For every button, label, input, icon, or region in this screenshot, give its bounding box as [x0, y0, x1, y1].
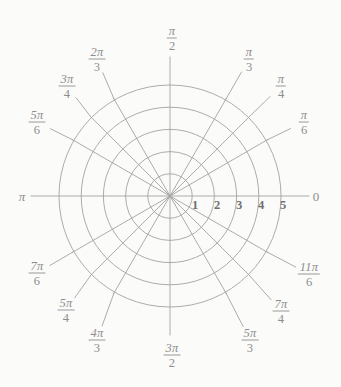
label-leader-line: [267, 252, 296, 267]
fraction-denominator: 3: [244, 59, 254, 73]
grid-spoke: [72, 140, 170, 197]
label-leader-line: [267, 129, 291, 140]
radial-tick-label-r3: 3: [236, 199, 242, 212]
fraction-numerator: 7π: [273, 298, 290, 312]
fraction-numerator: 3π: [59, 73, 76, 87]
label-leader-line: [75, 275, 91, 298]
angle-tick-label-pi-over-4: π4: [276, 73, 286, 100]
fraction-numerator: π: [167, 25, 177, 39]
fraction-numerator: 3π: [164, 342, 181, 356]
label-leader-line: [76, 98, 91, 117]
fraction-denominator: 3: [242, 340, 259, 354]
fraction-denominator: 3: [89, 340, 106, 354]
radial-tick-label-r2: 2: [214, 199, 220, 212]
fraction: 3π4: [59, 73, 76, 100]
fraction-denominator: 4: [273, 311, 290, 325]
fraction-denominator: 3: [89, 59, 106, 73]
fraction-denominator: 6: [29, 122, 46, 136]
angle-tick-label-pi-over-3: π3: [244, 46, 254, 73]
fraction-numerator: 11π: [298, 261, 320, 275]
fraction-denominator: 4: [58, 310, 75, 324]
label-leader-line: [102, 293, 114, 326]
angle-tick-label-eleven-pi-over-6: 11π6: [298, 261, 320, 288]
angle-tick-label-five-pi-over-4: 5π4: [58, 297, 75, 324]
angle-label-text: 0: [313, 189, 320, 204]
fraction-numerator: π: [276, 73, 286, 87]
angle-label-text: π: [19, 189, 26, 204]
label-leader-line: [226, 72, 242, 99]
fraction-numerator: 7π: [29, 260, 46, 274]
fraction: π4: [276, 73, 286, 100]
polar-grid-canvas: [0, 0, 341, 387]
grid-spoke: [114, 196, 171, 294]
grid-spoke: [90, 196, 170, 276]
grid-spoke: [170, 140, 268, 197]
label-leader-line: [103, 73, 114, 99]
fraction: 11π6: [298, 261, 320, 288]
fraction-numerator: 2π: [89, 46, 106, 60]
fraction: 4π3: [89, 327, 106, 354]
grid-spoke: [170, 98, 227, 196]
label-leader-line: [50, 252, 73, 265]
fraction: 7π6: [29, 260, 46, 287]
angle-tick-label-pi: π: [19, 190, 26, 203]
fraction-denominator: 2: [164, 355, 181, 369]
fraction-numerator: 5π: [58, 297, 75, 311]
fraction: π2: [167, 25, 177, 52]
angle-tick-label-seven-pi-over-4: 7π4: [273, 298, 290, 325]
radial-tick-label-r5: 5: [280, 199, 286, 212]
radial-tick-label-r4: 4: [258, 199, 264, 212]
fraction: 3π2: [164, 342, 181, 369]
label-leader-line: [249, 275, 271, 300]
fraction-denominator: 4: [276, 86, 286, 100]
fraction: 7π4: [273, 298, 290, 325]
radial-tick-label-r1: 1: [192, 199, 198, 212]
label-leader-line: [226, 293, 243, 327]
fraction-numerator: π: [299, 109, 309, 123]
fraction: π6: [299, 109, 309, 136]
angle-tick-label-four-pi-over-3: 4π3: [89, 327, 106, 354]
grid-spoke: [114, 98, 171, 196]
angle-tick-label-zero: 0: [313, 190, 320, 203]
angle-tick-label-pi-over-6: π6: [299, 109, 309, 136]
fraction: 5π3: [242, 327, 259, 354]
fraction: π3: [244, 46, 254, 73]
label-leader-line: [50, 129, 73, 140]
fraction: 5π6: [29, 109, 46, 136]
fraction-numerator: 4π: [89, 327, 106, 341]
angle-tick-label-five-pi-over-3: 5π3: [242, 327, 259, 354]
fraction-denominator: 6: [298, 274, 320, 288]
angle-tick-label-three-pi-over-4: 3π4: [59, 73, 76, 100]
polar-grid-figure: 0π6π4π3π22π33π45π6π7π65π44π33π25π37π411π…: [0, 0, 341, 387]
fraction-denominator: 4: [59, 86, 76, 100]
fraction-numerator: 5π: [242, 327, 259, 341]
fraction-denominator: 6: [299, 122, 309, 136]
grid-spoke: [170, 116, 250, 196]
fraction: 2π3: [89, 46, 106, 73]
angle-tick-label-three-pi-over-2: 3π2: [164, 342, 181, 369]
angle-tick-label-pi-over-2: π2: [167, 25, 177, 52]
fraction-numerator: 5π: [29, 109, 46, 123]
grid-spoke: [72, 196, 170, 253]
fraction: 5π4: [58, 297, 75, 324]
label-leader-line: [249, 96, 270, 116]
fraction-denominator: 6: [29, 273, 46, 287]
grid-spoke: [90, 116, 170, 196]
fraction-denominator: 2: [167, 38, 177, 52]
angle-tick-label-two-pi-over-3: 2π3: [89, 46, 106, 73]
fraction-numerator: π: [244, 46, 254, 60]
angle-tick-label-five-pi-over-6: 5π6: [29, 109, 46, 136]
angle-tick-label-seven-pi-over-6: 7π6: [29, 260, 46, 287]
